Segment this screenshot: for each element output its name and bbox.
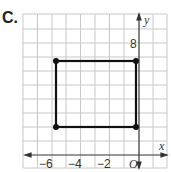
- vertex-point: [133, 58, 139, 64]
- origin-label: O: [129, 157, 138, 171]
- coordinate-graph: x y −6 −4 −2 O 8: [0, 0, 171, 172]
- x-tick--6: −6: [39, 157, 53, 171]
- x-axis-label: x: [158, 139, 165, 153]
- y-axis-label: y: [143, 13, 150, 27]
- vertex-point: [133, 124, 139, 130]
- axes: [25, 14, 167, 168]
- grid: [23, 14, 167, 168]
- x-tick--4: −4: [68, 157, 82, 171]
- x-tick--2: −2: [97, 157, 111, 171]
- vertex-point: [53, 124, 59, 130]
- y-tick-8: 8: [130, 37, 137, 51]
- vertex-point: [53, 58, 59, 64]
